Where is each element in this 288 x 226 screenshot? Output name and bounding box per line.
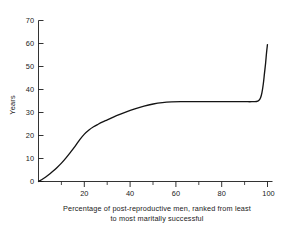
y-tick-label-60: 60 (26, 39, 34, 48)
y-tick-label-70: 70 (26, 16, 34, 25)
x-axis-title-line-1: Percentage of post-reproductive men, ran… (63, 204, 251, 213)
x-axis-title-line-2: to most maritally successful (110, 214, 203, 223)
y-tick-label-50: 50 (26, 62, 34, 71)
x-tick-label-100: 100 (262, 189, 274, 198)
y-axis-tick-labels: 70 60 50 40 30 20 10 0 (26, 16, 34, 186)
data-curve-line (39, 45, 268, 182)
y-tick-label-0: 0 (30, 177, 34, 186)
x-axis-tick-labels: 20 40 60 80 100 (80, 189, 274, 198)
x-tick-label-40: 40 (126, 189, 134, 198)
x-axis-ticks (61, 182, 267, 188)
chart-figure: Years 70 60 50 40 30 20 10 0 (0, 0, 288, 226)
y-axis-title: Years (8, 95, 17, 115)
y-tick-label-10: 10 (26, 154, 34, 163)
chart-svg: Years 70 60 50 40 30 20 10 0 (0, 0, 288, 226)
y-tick-label-30: 30 (26, 108, 34, 117)
y-tick-label-20: 20 (26, 131, 34, 140)
x-tick-label-20: 20 (80, 189, 88, 198)
x-tick-label-60: 60 (172, 189, 180, 198)
y-tick-label-40: 40 (26, 85, 34, 94)
y-axis-ticks (39, 21, 44, 182)
x-tick-label-80: 80 (218, 189, 226, 198)
